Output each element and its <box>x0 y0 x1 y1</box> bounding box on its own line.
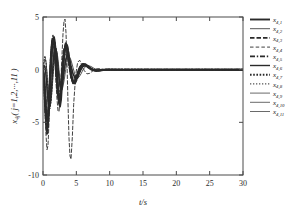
y-tick-label: -10 <box>28 171 39 180</box>
y-axis-tick-labels: 50-5-10 <box>28 13 39 180</box>
x-tick-label: 30 <box>239 179 247 188</box>
legend-label-x4-11: x4,11 <box>272 108 284 118</box>
x-tick-label: 0 <box>41 179 45 188</box>
plot-background <box>43 17 243 175</box>
y-tick-label: 5 <box>35 13 39 22</box>
y-tick-label: 0 <box>35 66 39 75</box>
line-chart: 051015202530 50-5-10 t/s x4j( j=1,2,···,… <box>0 0 295 219</box>
chart-legend: x4,1x4,2x4,3x4,4x4,5x4,6x4,7x4,8x4,9x4,1… <box>250 16 285 118</box>
x-tick-label: 10 <box>106 179 114 188</box>
chart-figure: 051015202530 50-5-10 t/s x4j( j=1,2,···,… <box>0 0 295 219</box>
x-axis-label: t/s <box>139 197 148 207</box>
y-axis-label: x4j( j=1,2,···,11 ) <box>9 68 20 124</box>
x-tick-label: 5 <box>74 179 78 188</box>
y-tick-label: -5 <box>32 118 39 127</box>
x-tick-label: 25 <box>206 179 214 188</box>
x-tick-label: 20 <box>172 179 180 188</box>
svg-text:x4j( j=1,2,···,11 ): x4j( j=1,2,···,11 ) <box>9 68 20 124</box>
x-axis-tick-labels: 051015202530 <box>41 179 247 188</box>
x-tick-label: 15 <box>139 179 147 188</box>
